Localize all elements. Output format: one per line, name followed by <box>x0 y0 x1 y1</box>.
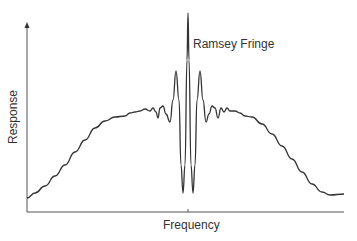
response-curve <box>27 13 344 198</box>
ramsey-fringe-chart <box>0 0 357 241</box>
x-axis-label: Frequency <box>163 218 220 232</box>
ramsey-fringe-annotation: Ramsey Fringe <box>193 37 274 51</box>
y-axis-label: Response <box>6 90 20 144</box>
y-axis-arrow-icon <box>25 22 30 28</box>
